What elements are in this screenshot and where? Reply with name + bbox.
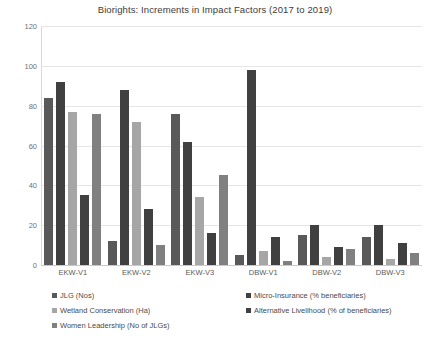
bar[interactable]	[346, 249, 355, 265]
y-tick-label: 120	[3, 22, 37, 31]
bar[interactable]	[298, 235, 307, 265]
y-tick-label: 20	[3, 221, 37, 230]
x-axis-category-labels: EKW-V1EKW-V2EKW-V3DBW-V1DBW-V2DBW-V3	[41, 268, 422, 282]
bar[interactable]	[207, 233, 216, 265]
bar[interactable]	[271, 237, 280, 265]
y-tick-label: 0	[3, 261, 37, 270]
bar[interactable]	[362, 237, 371, 265]
bar-group-ekw-v2	[105, 26, 169, 265]
legend-label: Alternative Livelihood (% of beneficiari…	[254, 306, 392, 315]
bar[interactable]	[92, 114, 101, 265]
legend-column-right: Micro-Insurance (% beneficiaries)Alterna…	[246, 288, 392, 318]
x-tick-label: EKW-V2	[122, 268, 151, 277]
y-tick-label: 60	[3, 141, 37, 150]
bar[interactable]	[108, 241, 117, 265]
legend-swatch-icon	[52, 323, 57, 328]
legend-swatch-icon	[246, 293, 251, 298]
x-tick-label: EKW-V3	[185, 268, 214, 277]
bar[interactable]	[374, 225, 383, 265]
y-tick-label: 80	[3, 101, 37, 110]
bar[interactable]	[171, 114, 180, 265]
legend-label: Women Leadership (No of JLGs)	[60, 321, 170, 330]
legend-item[interactable]: Micro-Insurance (% beneficiaries)	[246, 288, 392, 302]
bar[interactable]	[144, 209, 153, 265]
legend-item[interactable]: Wetland Conservation (Ha)	[52, 303, 170, 317]
bar[interactable]	[235, 255, 244, 265]
bar-group-dbw-v3	[359, 26, 423, 265]
bar[interactable]	[68, 112, 77, 265]
bar[interactable]	[410, 253, 419, 265]
bar[interactable]	[120, 90, 129, 265]
chart-title: Biorights: Increments in Impact Factors …	[0, 4, 430, 15]
x-tick-label: EKW-V1	[58, 268, 87, 277]
bar[interactable]	[183, 142, 192, 265]
legend-label: JLG (Nos)	[60, 291, 94, 300]
bar[interactable]	[398, 243, 407, 265]
bar[interactable]	[156, 245, 165, 265]
plot-area	[41, 26, 422, 265]
legend-item[interactable]: Women Leadership (No of JLGs)	[52, 318, 170, 332]
bar[interactable]	[195, 197, 204, 265]
x-tick-label: DBW-V3	[376, 268, 405, 277]
legend-item[interactable]: JLG (Nos)	[52, 288, 170, 302]
bar[interactable]	[219, 175, 228, 265]
bar[interactable]	[80, 195, 89, 265]
bar[interactable]	[259, 251, 268, 265]
bar-group-ekw-v3	[168, 26, 232, 265]
legend-swatch-icon	[246, 308, 251, 313]
y-tick-label: 100	[3, 61, 37, 70]
bar-group-dbw-v2	[295, 26, 359, 265]
bar-group-ekw-v1	[41, 26, 105, 265]
x-tick-label: DBW-V2	[312, 268, 341, 277]
x-axis-line	[41, 265, 422, 266]
bar[interactable]	[310, 225, 319, 265]
x-tick-label: DBW-V1	[249, 268, 278, 277]
y-tick-label: 40	[3, 181, 37, 190]
legend-item[interactable]: Alternative Livelihood (% of beneficiari…	[246, 303, 392, 317]
bar[interactable]	[334, 247, 343, 265]
legend-swatch-icon	[52, 308, 57, 313]
chart-container: Biorights: Increments in Impact Factors …	[0, 0, 430, 339]
bar[interactable]	[132, 122, 141, 265]
bar[interactable]	[44, 98, 53, 265]
bar-group-dbw-v1	[232, 26, 296, 265]
legend-column-left: JLG (Nos)Wetland Conservation (Ha)Women …	[52, 288, 170, 333]
legend-label: Wetland Conservation (Ha)	[60, 306, 150, 315]
legend-label: Micro-Insurance (% beneficiaries)	[254, 291, 366, 300]
bar[interactable]	[56, 82, 65, 265]
chart-legend: JLG (Nos)Wetland Conservation (Ha)Women …	[30, 288, 420, 334]
bar[interactable]	[247, 70, 256, 265]
legend-swatch-icon	[52, 293, 57, 298]
bar[interactable]	[322, 257, 331, 265]
